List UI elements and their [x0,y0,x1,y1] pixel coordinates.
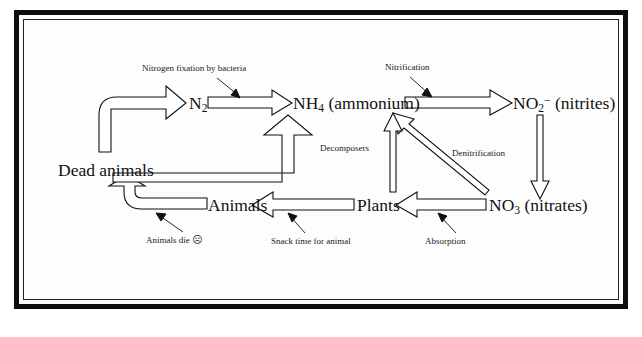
arrow-n2-to-nh4 [208,90,292,115]
annotation-decomposers: Decomposers [320,144,369,153]
annotation-denitrification: Denitrification [452,149,505,158]
node-label-no2: NO2− (nitrites) [513,95,615,115]
node-label-animals: Animals [208,197,267,215]
arrow-plants-to-nh4 [384,113,402,192]
arrow-deadanimals-to-n2 [99,86,186,152]
annotation-snack-time: Snack time for animal [271,237,351,246]
arrow-nh4-to-no2 [405,90,512,115]
sad-face-icon: ☹ [192,234,202,245]
node-text-plants: Plants [357,195,400,215]
node-label-plants: Plants [357,197,400,215]
node-label-dead-animals: Dead animals [58,162,154,180]
node-text-n2: N2 [189,93,207,113]
node-text-animals: Animals [208,195,267,215]
pointer-snack-time-head [288,213,297,222]
annotation-animals-die-text: Animals die [146,235,190,245]
annotation-nitrogen-fixation: Nitrogen fixation by bacteria [142,64,246,73]
pointer-animals-die-head [156,213,166,221]
node-label-no3: NO3 (nitrates) [489,197,588,217]
arrow-no2-to-no3 [531,115,549,199]
arrow-no3-to-plants [396,192,486,217]
node-label-nh4: NH4 (ammonium) [293,95,420,115]
node-text-nh4: NH4 (ammonium) [293,93,420,113]
node-label-n2: N2 [189,95,207,115]
node-text-no3: NO3 (nitrates) [489,195,588,215]
node-text-no2: NO2− (nitrites) [513,93,615,113]
annotation-absorption: Absorption [425,237,466,246]
pointer-absorption-head [438,213,447,222]
annotation-animals-die: Animals die ☹ [146,235,202,245]
annotation-nitrification: Nitrification [385,63,430,72]
nitrogen-cycle-figure: N2 NH4 (ammonium) NO2− (nitrites) NO3 (n… [0,0,642,337]
node-text-dead-animals: Dead animals [58,160,154,180]
